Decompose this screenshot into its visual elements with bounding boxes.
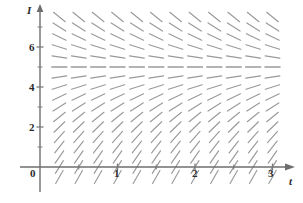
slope-segment xyxy=(246,45,260,50)
slope-segment xyxy=(188,85,202,90)
slope-segment xyxy=(54,131,64,142)
slope-segment xyxy=(188,56,203,58)
slope-segment xyxy=(129,56,144,58)
slope-segment xyxy=(267,112,279,121)
slope-segment xyxy=(168,45,182,50)
slope-segment xyxy=(133,170,140,183)
slope-segment xyxy=(170,12,182,21)
slope-segment xyxy=(210,141,219,153)
slope-segment xyxy=(229,141,238,153)
slope-segment xyxy=(54,12,66,21)
slope-segment xyxy=(188,45,202,50)
origin-tick-label: 0 xyxy=(30,168,36,179)
slope-segment xyxy=(171,141,180,153)
slope-segment xyxy=(266,103,279,111)
slope-segment xyxy=(227,103,240,111)
slope-segment xyxy=(91,45,105,50)
slope-segment xyxy=(265,56,280,58)
slope-segment xyxy=(92,23,105,31)
slope-segment xyxy=(131,103,144,111)
slope-segment xyxy=(207,76,222,78)
slope-segment xyxy=(266,34,280,41)
slope-segment xyxy=(149,85,163,90)
slope-segment xyxy=(207,85,221,90)
slope-segment xyxy=(209,131,219,142)
slope-segment xyxy=(149,56,164,58)
slope-segment xyxy=(168,76,183,78)
slope-segment xyxy=(110,56,125,58)
slope-segment xyxy=(227,94,241,101)
slope-segment xyxy=(110,45,124,50)
slope-segment xyxy=(247,103,260,111)
slope-segment xyxy=(52,76,67,78)
slope-segment xyxy=(130,45,144,50)
slope-segment xyxy=(91,34,105,41)
slope-segment xyxy=(169,34,183,41)
slope-segment xyxy=(267,122,278,132)
slope-segment xyxy=(246,76,261,78)
slope-segment xyxy=(209,112,221,121)
slope-segment xyxy=(170,112,182,121)
slope-segment xyxy=(91,94,105,101)
slope-segment xyxy=(72,45,86,50)
slope-segment xyxy=(92,112,104,121)
slope-segment xyxy=(246,56,261,58)
slope-segment xyxy=(247,112,259,121)
slope-segment xyxy=(150,103,163,111)
slope-segment xyxy=(150,112,162,121)
y-tick-label: 6 xyxy=(29,42,35,53)
slope-segment xyxy=(208,23,221,31)
slope-segment xyxy=(265,45,279,50)
slope-segment xyxy=(53,103,66,111)
slope-segment xyxy=(52,56,67,58)
slope-segment xyxy=(52,85,66,90)
slope-segment xyxy=(53,23,66,31)
slope-segment xyxy=(150,12,162,21)
slope-segment xyxy=(189,103,202,111)
slope-segment xyxy=(113,141,122,153)
slope-segment xyxy=(207,56,222,58)
slope-segment xyxy=(189,112,201,121)
slope-segment xyxy=(110,85,124,90)
slope-segment xyxy=(227,85,241,90)
slope-segment xyxy=(170,122,181,132)
slope-segment xyxy=(71,76,86,78)
slope-segment xyxy=(168,56,183,58)
slope-segment xyxy=(53,34,67,41)
slope-segment xyxy=(149,76,164,78)
slope-segment xyxy=(149,45,163,50)
slope-segment xyxy=(111,23,124,31)
slope-segment xyxy=(230,170,237,183)
slope-segment xyxy=(246,85,260,90)
slope-segment xyxy=(73,12,85,21)
slope-segment xyxy=(153,170,160,183)
slope-segment xyxy=(74,141,83,153)
slope-segment xyxy=(112,12,124,21)
slope-segment xyxy=(73,112,85,121)
slope-segment xyxy=(247,23,260,31)
slope-segment xyxy=(91,56,106,58)
x-axis-label: t xyxy=(289,176,292,187)
slope-segment xyxy=(131,12,143,21)
slope-segment xyxy=(249,141,258,153)
slope-segment xyxy=(246,94,260,101)
slope-segment xyxy=(169,23,182,31)
slope-segment xyxy=(91,76,106,78)
slope-segment xyxy=(208,34,222,41)
slope-segment xyxy=(93,122,104,132)
slope-segment xyxy=(265,85,279,90)
slope-segment xyxy=(208,103,221,111)
slope-segment xyxy=(150,94,164,101)
slope-segment xyxy=(247,12,259,21)
slope-segment xyxy=(171,131,181,142)
slope-segment xyxy=(268,131,278,142)
slope-segment xyxy=(53,94,67,101)
slope-segments-group xyxy=(52,12,280,183)
slope-segment xyxy=(188,34,202,41)
slope-segment xyxy=(130,34,144,41)
slope-segment xyxy=(266,94,280,101)
slope-segment xyxy=(94,141,103,153)
slope-field-figure: I t 0 123 246 xyxy=(0,0,303,203)
slope-segment xyxy=(72,23,85,31)
slope-segment xyxy=(227,45,241,50)
